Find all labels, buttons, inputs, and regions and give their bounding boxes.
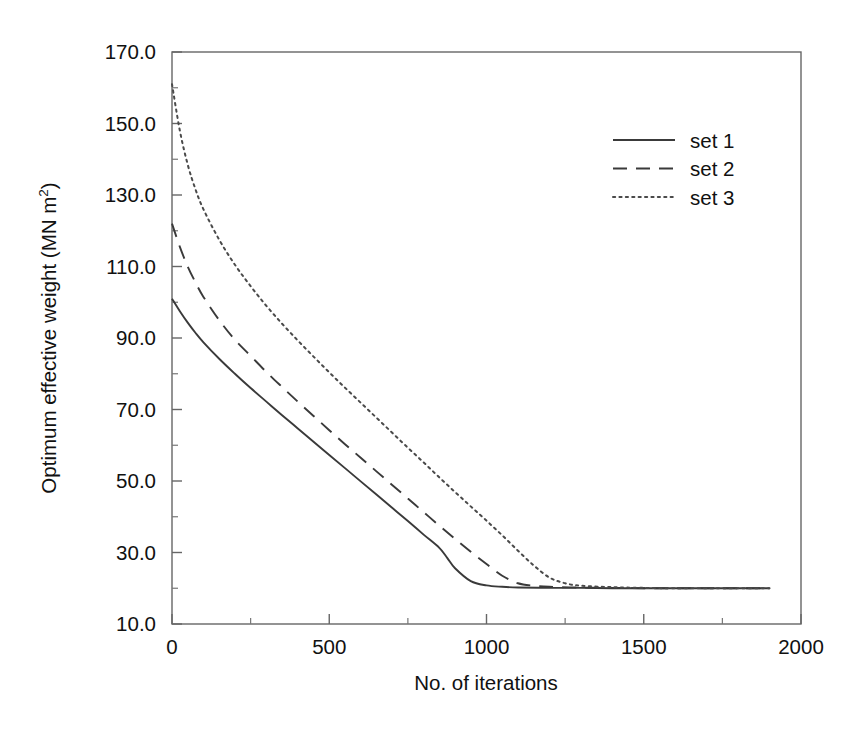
legend-label-2: set 2 [690,157,734,180]
y-tick-label: 50.0 [116,469,156,492]
x-tick-label: 1000 [464,635,510,658]
y-tick-label: 90.0 [116,326,156,349]
x-tick-label: 2000 [778,635,824,658]
legend-label-1: set 1 [690,129,734,152]
y-tick-label: 70.0 [116,398,156,421]
y-tick-label: 170.0 [105,40,156,63]
y-axis-title-tail: ) [37,182,60,189]
line-chart: 10.030.050.070.090.0110.0130.0150.0170.0… [0,0,867,729]
x-tick-label: 500 [312,635,346,658]
x-tick-label: 1500 [621,635,667,658]
y-axis-title: Optimum effective weight (MN m2) [36,182,60,493]
y-tick-label: 10.0 [116,612,156,635]
x-tick-label: 0 [166,635,177,658]
chart-figure: 10.030.050.070.090.0110.0130.0150.0170.0… [0,0,867,729]
y-axis-title-main: Optimum effective weight (MN m [37,197,60,494]
legend-label-3: set 3 [690,186,734,209]
y-tick-label: 110.0 [106,255,156,278]
y-axis-title-superscript: 2 [36,189,51,197]
y-tick-label: 130.0 [105,183,156,206]
x-axis-title: No. of iterations [414,671,558,694]
y-tick-label: 150.0 [105,112,156,135]
y-tick-label: 30.0 [116,541,156,564]
